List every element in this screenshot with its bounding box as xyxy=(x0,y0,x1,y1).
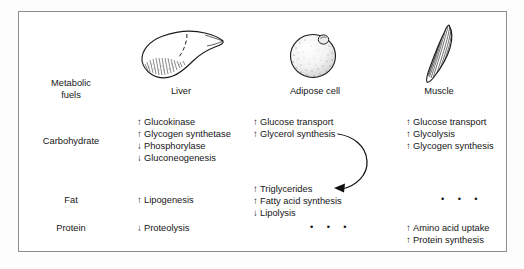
cell-carbohydrate-liver-item-1: ↑Glycogen synthetase xyxy=(137,128,231,140)
arrow-up-icon: ↑ xyxy=(253,128,260,140)
row-header-metabolic-fuels: Metabolic fuels xyxy=(28,77,114,102)
row-label-protein: Protein xyxy=(20,222,122,234)
liver-illustration xyxy=(135,24,227,84)
cell-fat-liver-item-0: ↑Lipogenesis xyxy=(137,194,194,206)
column-caption-adipose: Adipose cell xyxy=(275,86,355,96)
cell-carbohydrate-liver-item-3: ↓Gluconeogenesis xyxy=(137,152,216,164)
cell-protein-muscle-item-1: ↑Protein synthesis xyxy=(406,234,484,246)
arrow-up-icon: ↑ xyxy=(406,116,413,128)
cell-carbohydrate-muscle-item-2: ↑Glycogen synthesis xyxy=(406,140,494,152)
cell-fat-muscle-ellipsis: • • • xyxy=(441,194,483,204)
arrow-up-icon: ↑ xyxy=(137,116,144,128)
arrow-up-icon: ↑ xyxy=(253,195,260,207)
entry-label: Proteolysis xyxy=(144,223,189,233)
entry-label: Glucose transport xyxy=(413,117,486,127)
entry-label: Gluconeogenesis xyxy=(144,153,216,163)
entry-label: Glycolysis xyxy=(413,129,455,139)
cell-carbohydrate-liver-item-2: ↓Phosphorylase xyxy=(137,140,206,152)
cell-carbohydrate-liver-item-0: ↑Glucokinase xyxy=(137,116,195,128)
arrow-up-icon: ↑ xyxy=(253,116,260,128)
arrow-up-icon: ↑ xyxy=(253,183,260,195)
row-header-line2: fuels xyxy=(28,89,114,101)
metabolic-fuels-figure: Liver xyxy=(0,0,524,269)
entry-label: Glucokinase xyxy=(144,117,195,127)
arrow-down-icon: ↓ xyxy=(137,152,144,164)
muscle-illustration xyxy=(408,22,470,86)
column-caption-muscle: Muscle xyxy=(405,86,473,96)
entry-label: Triglycerides xyxy=(260,184,312,194)
entry-label: Lipogenesis xyxy=(144,195,194,205)
cell-carbohydrate-muscle-item-1: ↑Glycolysis xyxy=(406,128,455,140)
cell-carbohydrate-adipose-item-0: ↑Glucose transport xyxy=(253,116,333,128)
column-caption-liver: Liver xyxy=(136,86,226,96)
row-header-line1: Metabolic xyxy=(28,77,114,89)
arrow-up-icon: ↑ xyxy=(406,222,413,234)
arrow-up-icon: ↑ xyxy=(406,128,413,140)
arrow-up-icon: ↑ xyxy=(406,234,413,246)
entry-label: Phosphorylase xyxy=(144,141,206,151)
entry-label: Glucose transport xyxy=(260,117,333,127)
entry-label: Lipolysis xyxy=(260,208,296,218)
entry-label: Glycogen synthetase xyxy=(144,129,231,139)
cell-fat-adipose-item-2: ↓Lipolysis xyxy=(253,207,296,219)
glycerol-to-triglycerides-arrow xyxy=(312,128,392,206)
cell-carbohydrate-muscle-item-0: ↑Glucose transport xyxy=(406,116,486,128)
entry-label: Amino acid uptake xyxy=(413,223,490,233)
adipose-cell-illustration xyxy=(285,24,345,84)
cell-protein-liver-item-0: ↓Proteolysis xyxy=(137,222,189,234)
cell-protein-adipose-ellipsis: • • • xyxy=(310,222,352,232)
arrow-up-icon: ↑ xyxy=(137,128,144,140)
entry-label: Protein synthesis xyxy=(413,235,484,245)
arrow-up-icon: ↑ xyxy=(406,140,413,152)
arrow-down-icon: ↓ xyxy=(137,222,144,234)
cell-protein-muscle-item-0: ↑Amino acid uptake xyxy=(406,222,490,234)
arrow-down-icon: ↓ xyxy=(253,207,260,219)
row-label-carbohydrate: Carbohydrate xyxy=(20,135,122,147)
arrow-down-icon: ↓ xyxy=(137,140,144,152)
cell-fat-adipose-item-0: ↑Triglycerides xyxy=(253,183,312,195)
entry-label: Glycogen synthesis xyxy=(413,141,494,151)
arrow-up-icon: ↑ xyxy=(137,194,144,206)
row-label-fat: Fat xyxy=(20,194,122,206)
